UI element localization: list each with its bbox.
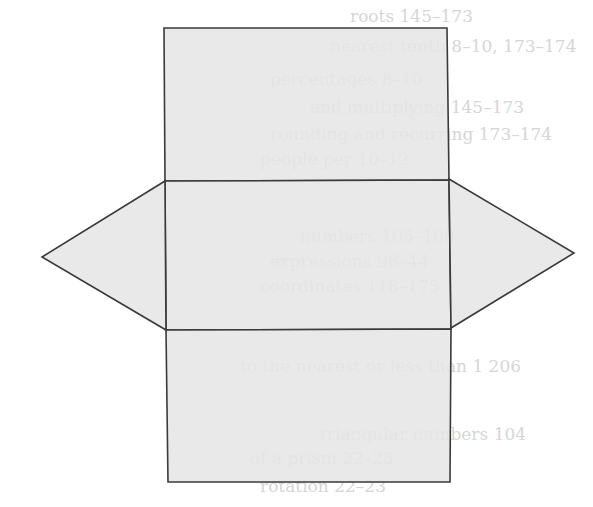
bottom-rectangle-face [166, 329, 451, 482]
right-triangle-face [449, 179, 574, 328]
prism-net-diagram [0, 0, 593, 507]
middle-rectangle-face [165, 180, 451, 330]
top-rectangle-face [164, 28, 449, 181]
left-triangle-face [42, 181, 166, 330]
